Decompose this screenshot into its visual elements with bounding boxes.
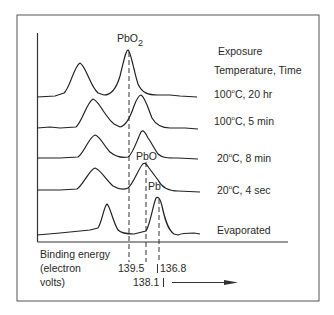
legend-series-1: 100oC, 20 hr <box>214 88 273 100</box>
legend-series-2: 100oC, 5 min <box>214 115 274 127</box>
curve-20c-8min <box>37 131 198 159</box>
legend-header-exposure: Exposure <box>218 45 263 57</box>
tick-label-138-1: 138.1 <box>133 276 159 288</box>
label-pb: Pb <box>148 180 161 192</box>
legend-series-3: 20oC, 8 min <box>217 152 271 164</box>
legend-series-4: 20oC, 4 sec <box>217 184 271 196</box>
legend-series-5: Evaporated <box>217 224 271 236</box>
label-pbo: PbO <box>136 150 157 162</box>
direction-arrow-icon <box>172 280 238 285</box>
x-axis-label-line3: volts) <box>40 276 65 288</box>
label-pbo2: PbO2 <box>117 32 143 48</box>
curve-evaporated <box>37 197 200 235</box>
svg-text:20oC, 8 min: 20oC, 8 min <box>217 152 271 164</box>
tick-label-136-8: 136.8 <box>160 262 186 274</box>
tick-label-139-5: 139.5 <box>118 262 144 274</box>
curve-100c-5min <box>37 95 198 129</box>
curve-20c-4sec <box>37 163 200 192</box>
x-axis-label-line1: Binding energy <box>40 248 111 260</box>
svg-text:100oC, 20 hr: 100oC, 20 hr <box>214 88 273 100</box>
svg-text:100oC, 5 min: 100oC, 5 min <box>214 115 274 127</box>
svg-text:20oC, 4 sec: 20oC, 4 sec <box>217 184 271 196</box>
xps-spectra-figure: PbO2 PbO Pb Exposure Temperature, Time 1… <box>0 0 334 315</box>
x-axis-label-line2: (electron <box>40 262 81 274</box>
curve-100c-20hr <box>37 50 197 97</box>
legend-header-temp-time: Temperature, Time <box>214 64 302 76</box>
